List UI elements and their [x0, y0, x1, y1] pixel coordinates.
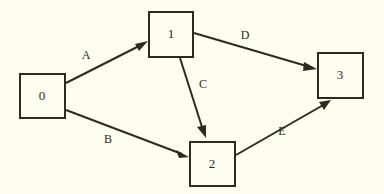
- node-3[interactable]: 3: [318, 53, 363, 98]
- edge-a[interactable]: A: [66, 41, 148, 83]
- edge-b-arrowhead: [176, 150, 189, 158]
- edge-b-line: [66, 110, 182, 154]
- edge-d[interactable]: D: [194, 28, 317, 71]
- node-0[interactable]: 0: [20, 74, 65, 118]
- node-1[interactable]: 1: [149, 12, 193, 57]
- node-2[interactable]: 2: [190, 142, 235, 186]
- graph-diagram: A B C D E 0: [0, 0, 384, 194]
- edge-c-label: C: [199, 77, 207, 91]
- graph-canvas: A B C D E 0: [0, 0, 384, 194]
- node-2-label: 2: [209, 156, 216, 171]
- node-3-label: 3: [337, 67, 344, 82]
- edge-c[interactable]: C: [180, 58, 207, 138]
- edge-e-arrowhead: [319, 100, 331, 110]
- edge-b[interactable]: B: [66, 110, 189, 158]
- edge-d-arrowhead: [303, 62, 317, 71]
- edge-c-line: [180, 58, 202, 127]
- edge-c-arrowhead: [197, 125, 206, 138]
- edge-e[interactable]: E: [236, 100, 331, 155]
- edge-a-line: [66, 44, 143, 83]
- edge-a-label: A: [82, 48, 91, 62]
- edge-b-label: B: [104, 132, 112, 146]
- edge-e-label: E: [278, 124, 285, 138]
- node-1-label: 1: [168, 26, 175, 41]
- edge-a-arrowhead: [135, 41, 148, 51]
- edge-d-label: D: [241, 28, 250, 42]
- edge-d-line: [194, 33, 310, 67]
- node-0-label: 0: [39, 88, 46, 103]
